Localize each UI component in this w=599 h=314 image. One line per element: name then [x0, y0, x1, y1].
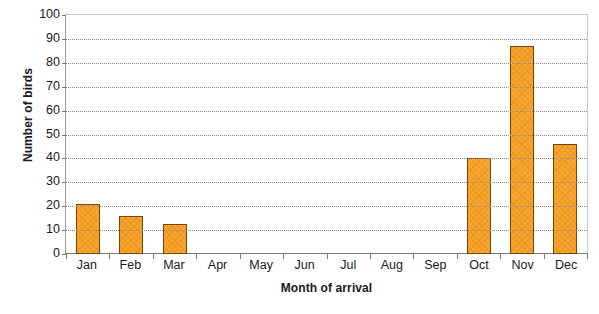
- y-axis-tick-label: 0: [24, 247, 60, 260]
- x-axis-tick-label: Sep: [414, 258, 458, 272]
- y-axis-tick: [62, 87, 66, 88]
- gridline: [66, 63, 587, 64]
- gridline: [66, 206, 587, 207]
- x-axis-tick-label: Apr: [196, 258, 240, 272]
- y-axis-tick: [62, 39, 66, 40]
- gridline: [66, 158, 587, 159]
- y-axis-tick-label: 40: [24, 151, 60, 164]
- gridline: [66, 39, 587, 40]
- bar[interactable]: [119, 216, 143, 254]
- y-axis-tick-label: 70: [24, 79, 60, 92]
- y-axis-tick: [62, 63, 66, 64]
- y-axis-tick-labels: 1009080706050403020100: [24, 0, 60, 314]
- x-axis-tick-label: Nov: [501, 258, 545, 272]
- x-axis-tick-label: Mar: [152, 258, 196, 272]
- bar-chart-figure: Number of birds 1009080706050403020100 J…: [0, 0, 599, 314]
- bar[interactable]: [510, 46, 534, 254]
- x-axis-tick-label: Jan: [65, 258, 109, 272]
- y-axis-tick: [62, 135, 66, 136]
- y-axis-tick-label: 60: [24, 103, 60, 116]
- y-axis-tick-label: 50: [24, 127, 60, 140]
- y-axis-tick: [62, 111, 66, 112]
- gridline: [66, 111, 587, 112]
- plot-area: [65, 14, 588, 254]
- bar[interactable]: [163, 224, 187, 254]
- y-axis-tick: [62, 15, 66, 16]
- y-axis-tick-label: 20: [24, 199, 60, 212]
- gridline: [66, 182, 587, 183]
- y-axis-tick: [62, 182, 66, 183]
- x-axis-tick-label: Oct: [457, 258, 501, 272]
- y-axis-tick-label: 10: [24, 223, 60, 236]
- y-axis-tick: [62, 230, 66, 231]
- gridline: [66, 135, 587, 136]
- gridline: [66, 230, 587, 231]
- y-axis-tick: [62, 158, 66, 159]
- y-axis-tick-label: 90: [24, 32, 60, 45]
- gridline: [66, 87, 587, 88]
- y-axis-tick-label: 100: [24, 8, 60, 21]
- bar[interactable]: [76, 204, 100, 254]
- y-axis-tick-label: 30: [24, 175, 60, 188]
- x-axis-tick-label: Feb: [109, 258, 153, 272]
- x-axis-tick-label: Jun: [283, 258, 327, 272]
- x-axis-tick-label: May: [239, 258, 283, 272]
- x-axis-tick-label: Jul: [326, 258, 370, 272]
- y-axis-tick: [62, 206, 66, 207]
- bar[interactable]: [553, 144, 577, 254]
- x-axis-tick-label: Aug: [370, 258, 414, 272]
- x-axis-tick-label: Dec: [544, 258, 588, 272]
- y-axis-tick-label: 80: [24, 56, 60, 69]
- x-axis-title: Month of arrival: [65, 281, 588, 295]
- x-axis-tick-labels: JanFebMarAprMayJunJulAugSepOctNovDec: [65, 258, 588, 272]
